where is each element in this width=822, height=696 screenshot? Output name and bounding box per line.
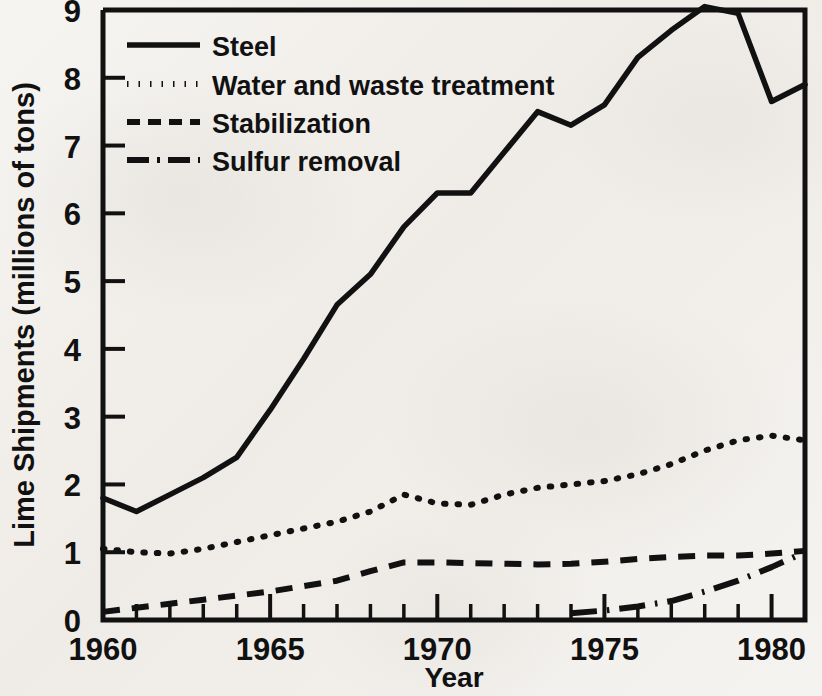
y-axis-ticks — [103, 78, 125, 552]
axis-box — [103, 10, 805, 620]
y-tick-label-8: 8 — [64, 62, 81, 97]
legend-item-stabilization: Stabilization — [127, 109, 371, 139]
y-tick-label-7: 7 — [64, 130, 81, 165]
legend: Steel Water and waste treatment Stabiliz… — [127, 32, 555, 177]
plot-frame — [103, 10, 805, 620]
legend-item-sulfur-removal: Sulfur removal — [127, 147, 401, 177]
x-tick-label-1975: 1975 — [570, 632, 639, 667]
y-tick-label-5: 5 — [64, 265, 81, 300]
y-tick-label-3: 3 — [64, 401, 81, 436]
x-axis-title: Year — [424, 662, 483, 693]
y-tick-label-4: 4 — [64, 333, 82, 368]
y-axis-title: Lime Shipments (millions of tons) — [8, 82, 40, 548]
y-axis-tick-labels: 0123456789 — [64, 0, 82, 639]
x-tick-label-1980: 1980 — [737, 632, 806, 667]
y-tick-label-1: 1 — [64, 536, 81, 571]
line-chart: 0123456789 19601965197019751980 Steel Wa… — [0, 0, 822, 696]
legend-label-water: Water and waste treatment — [212, 71, 555, 101]
series-line-water-and-waste-treatment — [103, 436, 805, 554]
y-tick-label-9: 9 — [64, 0, 81, 29]
y-tick-label-6: 6 — [64, 197, 81, 232]
x-tick-label-1960: 1960 — [69, 632, 138, 667]
x-axis-ticks — [103, 594, 805, 620]
legend-label-steel: Steel — [212, 32, 277, 62]
x-tick-label-1965: 1965 — [236, 632, 305, 667]
legend-label-sulfur-removal: Sulfur removal — [212, 147, 401, 177]
legend-item-steel: Steel — [127, 32, 277, 62]
figure-container: 0123456789 19601965197019751980 Steel Wa… — [0, 0, 822, 696]
y-tick-label-2: 2 — [64, 468, 81, 503]
legend-label-stabilization: Stabilization — [212, 109, 371, 139]
legend-item-water: Water and waste treatment — [127, 71, 555, 101]
series-line-stabilization — [103, 551, 805, 612]
